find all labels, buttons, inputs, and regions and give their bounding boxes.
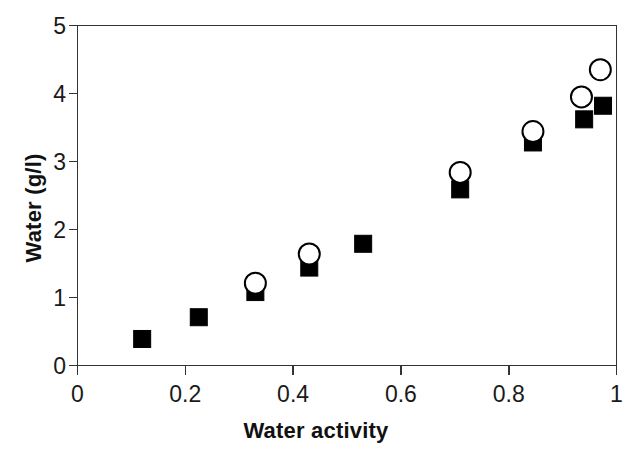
plot-area — [0, 0, 632, 454]
data-series-open-circle — [245, 59, 611, 294]
data-point-circle — [245, 273, 266, 294]
data-point-circle — [299, 243, 320, 264]
data-point-square — [190, 309, 207, 326]
data-point-square — [355, 235, 372, 252]
chart-figure: 012345 00.20.40.60.81 Water activity Wat… — [0, 0, 632, 454]
x-tick-label: 0.6 — [385, 383, 417, 406]
axis-frame — [78, 26, 617, 366]
x-tick-label: 0.2 — [169, 383, 201, 406]
data-point-square — [595, 97, 612, 114]
tick-marks — [69, 26, 617, 375]
data-point-circle — [522, 121, 543, 142]
data-point-square — [576, 111, 593, 128]
x-axis-title: Water activity — [0, 418, 632, 444]
y-tick-label: 0 — [30, 354, 66, 377]
x-tick-label: 0.8 — [493, 383, 525, 406]
x-tick-label: 0 — [71, 383, 84, 406]
data-point-circle — [571, 86, 592, 107]
data-point-circle — [590, 59, 611, 80]
data-point-square — [134, 330, 151, 347]
data-point-circle — [450, 162, 471, 183]
y-axis-title: Water (g/l) — [21, 88, 47, 328]
x-tick-label: 1 — [610, 383, 623, 406]
y-tick-label: 5 — [30, 14, 66, 37]
x-tick-label: 0.4 — [277, 383, 309, 406]
